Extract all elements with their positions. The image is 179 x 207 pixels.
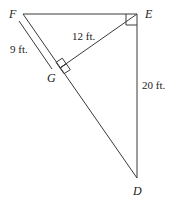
vertex-label-d: D xyxy=(132,184,142,198)
measure-label-ed: 20 ft. xyxy=(142,79,165,91)
vertex-label-e: E xyxy=(144,7,153,21)
triangle-diagram: F E G D 9 ft. 12 ft. 20 ft. xyxy=(0,0,179,207)
measure-label-eg: 12 ft. xyxy=(72,30,95,42)
vertex-label-f: F xyxy=(8,7,17,21)
measure-label-fg: 9 ft. xyxy=(10,43,28,55)
vertex-label-g: G xyxy=(47,71,56,85)
